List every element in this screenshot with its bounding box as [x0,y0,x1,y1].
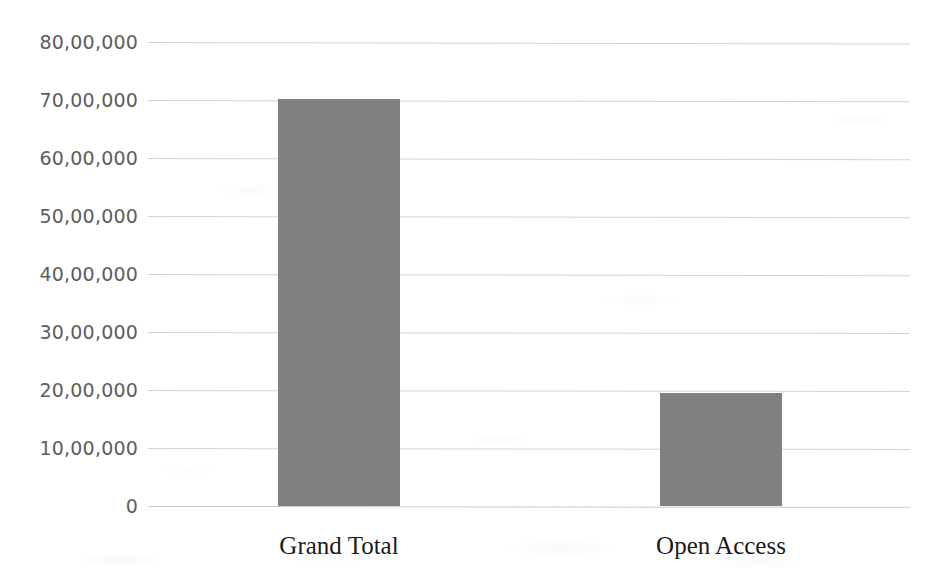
y-axis: 80,00,000 70,00,000 60,00,000 50,00,000 … [0,42,138,506]
bar-chart: 80,00,000 70,00,000 60,00,000 50,00,000 … [0,0,930,583]
gridline [148,448,910,450]
y-axis-tick-label: 20,00,000 [0,379,138,401]
plot-area [148,42,910,506]
gridline [148,100,910,102]
x-axis-tick-label-open-access: Open Access [656,532,786,560]
y-axis-tick-label: 40,00,000 [0,263,138,285]
bar-open-access[interactable] [660,393,782,506]
x-axis-tick-label-grand-total: Grand Total [279,532,398,560]
y-axis-tick-label: 0 [0,495,138,517]
y-axis-tick-label: 80,00,000 [0,31,138,53]
x-axis: Grand Total Open Access [148,506,910,583]
gridline [148,390,910,392]
gridline [148,332,910,334]
gridline [148,158,910,160]
y-axis-tick-label: 30,00,000 [0,321,138,343]
y-axis-tick-label: 10,00,000 [0,437,138,459]
bar-grand-total[interactable] [278,99,400,506]
gridline [148,216,910,218]
y-axis-tick-label: 50,00,000 [0,205,138,227]
y-axis-tick-label: 60,00,000 [0,147,138,169]
gridline [148,274,910,276]
y-axis-tick-label: 70,00,000 [0,89,138,111]
gridline [148,42,910,45]
